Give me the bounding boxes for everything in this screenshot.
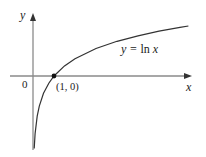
y-axis-label: y: [19, 8, 26, 22]
curve-label-var: x: [152, 42, 159, 56]
curve-label: y = lnx: [120, 42, 159, 56]
point-marker: [52, 74, 57, 79]
point-label: (1, 0): [56, 81, 79, 93]
x-axis-label: x: [185, 80, 192, 94]
curve-label-fn: ln: [140, 42, 149, 56]
origin-label: 0: [22, 78, 28, 90]
curve-label-prefix: y =: [120, 42, 140, 56]
y-axis-arrow-icon: [30, 13, 36, 21]
ln-graph: y x 0 (1, 0) y = lnx: [0, 0, 206, 157]
x-axis-arrow-icon: [184, 73, 192, 79]
